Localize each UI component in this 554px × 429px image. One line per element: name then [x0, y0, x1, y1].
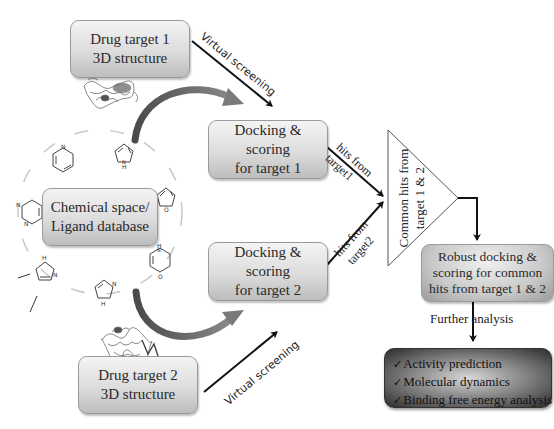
docking-1-line1: Docking & [234, 121, 301, 140]
drug-target-1-line2: 3D structure [93, 49, 168, 68]
robust-line1: Robust docking & [438, 249, 537, 265]
furan-molecule-icon [157, 188, 175, 206]
svg-text:N: N [24, 220, 29, 227]
docking-1-line3: for target 1 [235, 159, 301, 178]
drug-target-2-line2: 3D structure [101, 385, 176, 404]
chemical-space-node: Chemical space/ Ligand database [42, 188, 158, 246]
docking-1-line2: scoring [246, 140, 290, 159]
docking-2-line1: Docking & [234, 243, 301, 262]
docking-2-line2: scoring [246, 262, 290, 281]
curved-arrowhead-top [222, 88, 244, 106]
svg-text:N: N [53, 271, 58, 278]
pyridine-molecule-icon [53, 148, 73, 172]
pyrazole-molecule-icon [36, 262, 54, 280]
common-hits-label: Common hits from target 1 & 2 [396, 142, 428, 254]
svg-text:N: N [112, 280, 117, 287]
robust-line3: hits from target 1 & 2 [429, 281, 546, 297]
drug-target-1-node: Drug target 1 3D structure [70, 20, 190, 78]
drug-target-2-node: Drug target 2 3D structure [78, 356, 198, 414]
svg-text:H: H [42, 254, 47, 261]
further-analysis-label: Further analysis [430, 311, 513, 327]
drug-target-1-line1: Drug target 1 [90, 30, 170, 49]
check-icon: ✓ [393, 394, 402, 407]
tick-mark [18, 274, 30, 278]
robust-line2: scoring for common [433, 265, 542, 281]
robust-docking-node: Robust docking & scoring for common hits… [421, 244, 554, 302]
svg-text:N: N [61, 143, 66, 150]
docking-target-2-node: Docking & scoring for target 2 [208, 242, 328, 301]
final-item-binding: ✓Binding free energy analysis [393, 391, 547, 409]
further-analysis-node: ✓Activity prediction ✓Molecular dynamics… [384, 348, 552, 408]
check-icon: ✓ [393, 358, 402, 371]
drug-target-2-line1: Drug target 2 [98, 366, 178, 385]
svg-text:N: N [16, 201, 21, 208]
svg-text:O: O [164, 206, 169, 213]
docking-target-1-node: Docking & scoring for target 1 [208, 120, 328, 179]
protein-structure-1-icon [84, 74, 138, 108]
final-item-activity: ✓Activity prediction [393, 355, 547, 373]
chemical-space-line1: Chemical space/ [51, 198, 150, 217]
svg-text:N: N [122, 159, 126, 165]
arrow-to-robust [458, 198, 477, 240]
svg-text:H: H [101, 300, 106, 307]
imidazole-molecule-icon [95, 280, 113, 298]
check-icon: ✓ [393, 376, 402, 389]
svg-text:N: N [157, 247, 161, 253]
tick-mark [30, 296, 37, 312]
chemical-space-line2: Ligand database [51, 217, 149, 236]
final-item-md: ✓Molecular dynamics [393, 373, 547, 391]
svg-text:O: O [158, 273, 163, 280]
docking-2-line3: for target 2 [235, 281, 301, 300]
